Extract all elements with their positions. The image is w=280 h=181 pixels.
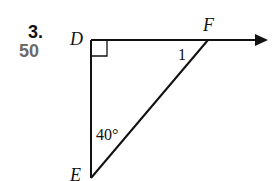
segment-ef	[91, 40, 208, 178]
right-angle-marker	[91, 40, 107, 56]
angle-e-label: 40°	[96, 126, 118, 143]
angle-1-label: 1	[178, 46, 186, 63]
arrow-head-icon	[255, 34, 268, 46]
label-e: E	[69, 165, 81, 181]
label-f: F	[202, 15, 215, 35]
label-d: D	[69, 29, 83, 49]
triangle-diagram: D F E 1 40°	[0, 0, 280, 181]
